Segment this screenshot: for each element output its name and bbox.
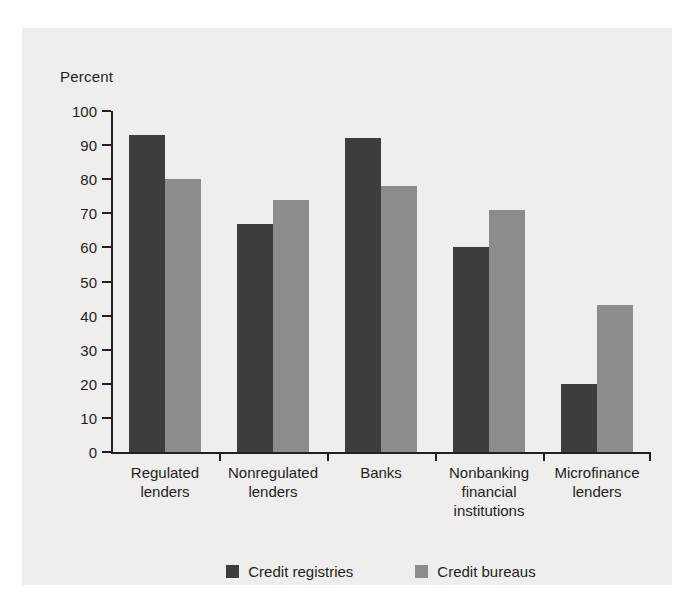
y-axis-tick-label: 10 <box>80 409 97 426</box>
y-axis-tick-label: 90 <box>80 137 97 154</box>
x-axis-line <box>111 452 651 454</box>
x-axis-tick <box>543 452 545 461</box>
legend-swatch <box>226 565 239 578</box>
y-axis-tick-label: 80 <box>80 171 97 188</box>
y-axis-tick <box>102 212 111 214</box>
legend-swatch <box>415 565 428 578</box>
legend-item[interactable]: Credit bureaus <box>415 563 535 580</box>
y-axis-line <box>111 111 113 452</box>
chart-legend: Credit registriesCredit bureaus <box>111 563 651 580</box>
y-axis-tick-label: 30 <box>80 341 97 358</box>
bar <box>453 247 489 452</box>
y-axis-tick-label: 60 <box>80 239 97 256</box>
y-axis-tick-label: 40 <box>80 307 97 324</box>
y-axis-tick <box>102 383 111 385</box>
bar <box>129 135 165 452</box>
x-axis-label-line: institutions <box>421 501 557 520</box>
y-axis-tick-label: 70 <box>80 205 97 222</box>
y-axis-tick-label: 0 <box>89 444 97 461</box>
x-axis-label-line: lenders <box>205 482 341 501</box>
x-axis-label: Microfinancelenders <box>529 463 665 501</box>
x-axis-tick <box>435 452 437 461</box>
y-axis-tick-label: 50 <box>80 273 97 290</box>
y-axis-tick <box>102 281 111 283</box>
bar <box>165 179 201 452</box>
y-axis-tick <box>102 417 111 419</box>
y-axis-tick <box>102 144 111 146</box>
x-axis-label-line: Microfinance <box>529 463 665 482</box>
bar <box>381 186 417 452</box>
y-axis-tick <box>102 451 111 453</box>
y-axis-tick-label: 100 <box>72 103 97 120</box>
bar <box>597 305 633 452</box>
y-axis-tick <box>102 349 111 351</box>
y-axis-tick <box>102 246 111 248</box>
bar <box>561 384 597 452</box>
x-axis-label-line: lenders <box>529 482 665 501</box>
y-axis-tick <box>102 315 111 317</box>
bar <box>345 138 381 452</box>
y-axis-tick <box>102 110 111 112</box>
y-axis-title: Percent <box>60 68 113 85</box>
bar <box>237 224 273 452</box>
x-axis-tick <box>327 452 329 461</box>
legend-label: Credit bureaus <box>437 563 535 580</box>
legend-item[interactable]: Credit registries <box>226 563 353 580</box>
legend-label: Credit registries <box>248 563 353 580</box>
y-axis-tick-label: 20 <box>80 375 97 392</box>
bar <box>489 210 525 452</box>
x-axis-tick <box>649 452 651 461</box>
chart-figure: Percent 0102030405060708090100 Regulated… <box>22 28 672 585</box>
plot-area: 0102030405060708090100 RegulatedlendersN… <box>111 111 651 452</box>
x-axis-tick <box>219 452 221 461</box>
y-axis-tick <box>102 178 111 180</box>
bar <box>273 200 309 452</box>
